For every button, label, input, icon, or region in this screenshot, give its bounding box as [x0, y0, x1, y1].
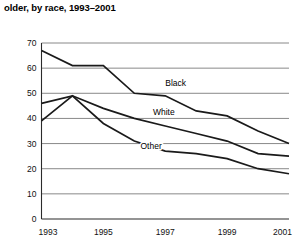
x-tick-label: 2001: [273, 227, 292, 237]
series-line-black: [42, 51, 290, 144]
series-label-white: White: [153, 107, 175, 117]
y-tick-label: 60: [27, 63, 37, 73]
plot-area: 010203040506070 19931995199719992001 Bla…: [0, 30, 302, 252]
chart-caption: older, by race, 1993–2001: [4, 2, 116, 14]
series-label-other: Other: [141, 141, 162, 151]
y-tick-label: 70: [27, 38, 37, 48]
series-inline-labels: BlackBlackWhiteWhiteOtherOther: [141, 78, 187, 151]
figure: older, by race, 1993–2001 01020304050607…: [0, 0, 302, 252]
y-axis-tick-labels: 010203040506070: [27, 38, 37, 224]
x-tick-label: 1997: [156, 227, 175, 237]
y-tick-label: 10: [27, 189, 37, 199]
axis-lines: [42, 43, 290, 219]
line-chart: 010203040506070 19931995199719992001 Bla…: [0, 30, 302, 252]
y-tick-label: 20: [27, 164, 37, 174]
x-axis-tick-labels: 19931995199719992001: [39, 227, 293, 237]
x-tick-label: 1999: [218, 227, 237, 237]
series-line-white: [42, 96, 290, 156]
series-label-black: Black: [165, 78, 187, 88]
y-tick-label: 40: [27, 113, 37, 123]
y-tick-label: 50: [27, 88, 37, 98]
y-tick-label: 30: [27, 139, 37, 149]
x-tick-label: 1995: [94, 227, 113, 237]
y-tick-label: 0: [32, 214, 37, 224]
x-tick-label: 1993: [39, 227, 58, 237]
